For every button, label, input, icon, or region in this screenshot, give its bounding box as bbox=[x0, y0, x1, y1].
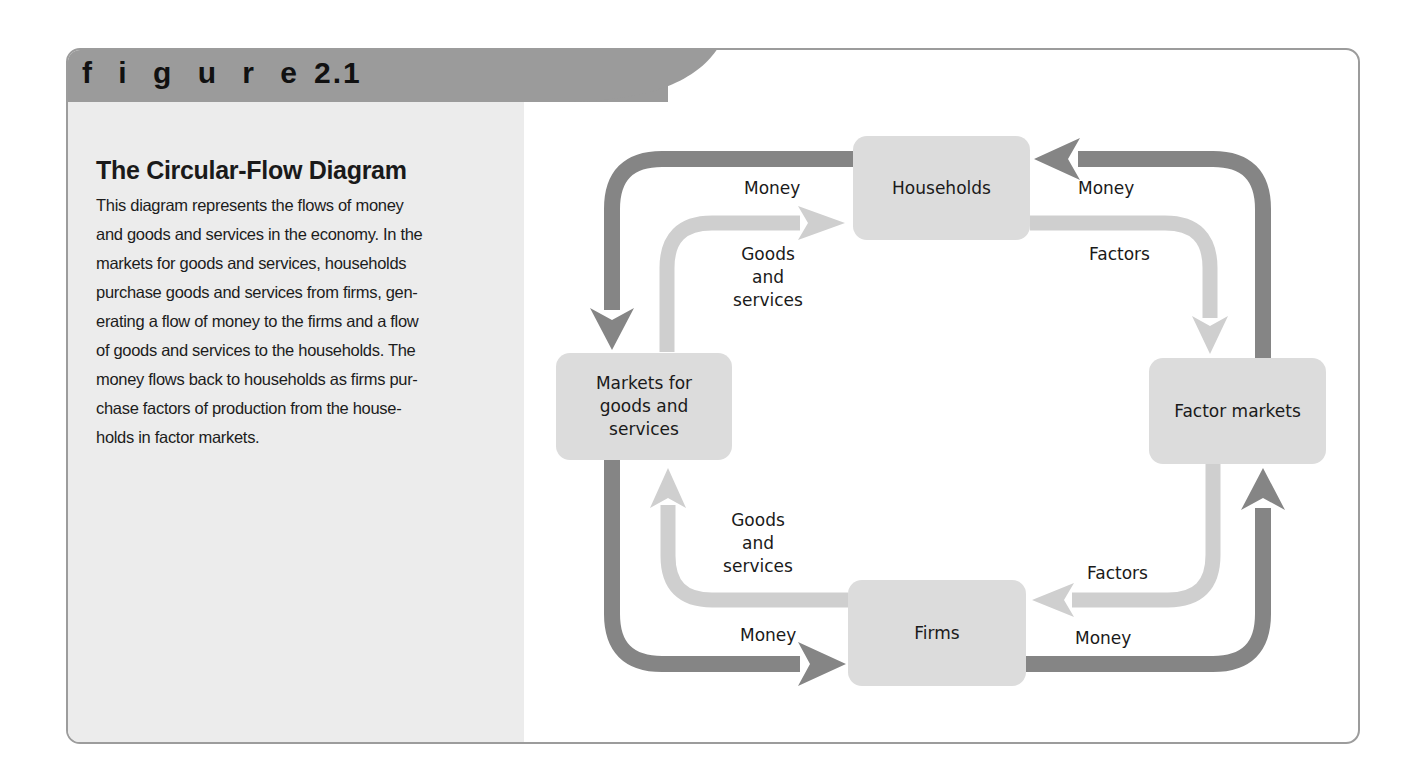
label-goods-bottom-left: Goods and services bbox=[710, 509, 806, 578]
node-households-label: Households bbox=[892, 177, 991, 200]
money-flow-to-factor-markets bbox=[1026, 508, 1263, 664]
arrowhead-factors-to-factor-markets bbox=[1192, 316, 1228, 354]
node-markets-label-line: goods and bbox=[600, 395, 689, 418]
label-line: and bbox=[710, 532, 806, 555]
node-factor-markets-label: Factor markets bbox=[1174, 400, 1301, 423]
arrowhead-money-to-factor-markets bbox=[1241, 468, 1285, 510]
arrowhead-money-to-firms bbox=[798, 642, 846, 686]
arrowhead-money-to-households bbox=[1034, 138, 1080, 180]
label-factors-top-right: Factors bbox=[1089, 243, 1150, 266]
node-markets-for-goods-and-services: Markets for goods and services bbox=[556, 353, 732, 460]
factors-flow-to-factor-markets bbox=[1030, 223, 1210, 318]
node-firms: Firms bbox=[848, 580, 1026, 686]
arrowhead-factors-to-firms bbox=[1032, 583, 1074, 617]
node-markets-label-line: Markets for bbox=[596, 372, 692, 395]
label-money-bottom-right: Money bbox=[1075, 627, 1131, 650]
node-firms-label: Firms bbox=[914, 622, 959, 645]
node-factor-markets: Factor markets bbox=[1149, 358, 1326, 464]
arrowhead-goods-to-markets bbox=[650, 468, 686, 508]
label-money-top-right: Money bbox=[1078, 177, 1134, 200]
label-money-bottom-left: Money bbox=[740, 624, 796, 647]
label-factors-bottom-right: Factors bbox=[1087, 562, 1148, 585]
arrowhead-money-to-markets bbox=[590, 308, 634, 350]
label-line: services bbox=[720, 289, 816, 312]
node-markets-label-line: services bbox=[609, 418, 679, 441]
label-money-top-left: Money bbox=[744, 177, 800, 200]
label-goods-top-left: Goods and services bbox=[720, 243, 816, 312]
arrowhead-goods-to-households bbox=[798, 206, 845, 240]
label-line: services bbox=[710, 555, 806, 578]
label-line: Goods bbox=[720, 243, 816, 266]
label-line: and bbox=[720, 266, 816, 289]
label-line: Goods bbox=[710, 509, 806, 532]
node-households: Households bbox=[853, 136, 1030, 240]
